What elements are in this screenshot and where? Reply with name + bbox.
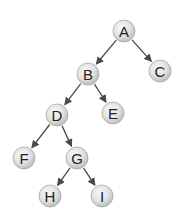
edge-d-f-arrow-icon [32, 125, 50, 148]
edge-a-c-arrow-icon [132, 40, 151, 61]
node-label: B [83, 66, 93, 83]
node-e: E [102, 102, 124, 124]
node-label: A [119, 23, 129, 40]
node-label: F [19, 150, 28, 167]
node-label: D [52, 107, 63, 124]
node-label: I [100, 188, 104, 205]
node-c: C [149, 60, 171, 82]
node-label: G [71, 150, 83, 167]
edge-a-b-arrow-icon [96, 40, 116, 64]
node-g: G [66, 147, 88, 169]
edge-d-g-arrow-icon [62, 126, 71, 146]
edge-b-e-arrow-icon [94, 84, 106, 102]
node-a: A [113, 20, 135, 42]
nodes-layer: ABCDEFGHI [13, 20, 171, 207]
tree-diagram: ABCDEFGHI [0, 0, 180, 217]
node-f: F [13, 147, 35, 169]
node-label: E [108, 105, 118, 122]
node-label: H [45, 188, 56, 205]
node-b: B [77, 63, 99, 85]
edge-b-d-arrow-icon [65, 84, 81, 105]
edge-g-i-arrow-icon [84, 168, 95, 185]
node-i: I [91, 185, 113, 207]
node-h: H [39, 185, 61, 207]
node-d: D [46, 104, 68, 126]
edge-g-h-arrow-icon [58, 168, 71, 186]
node-label: C [155, 63, 166, 80]
